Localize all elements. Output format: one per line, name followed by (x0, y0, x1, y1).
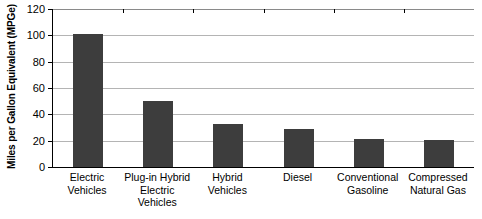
x-axis-label-line1: Hybrid Vehicles (208, 171, 247, 196)
category-separator (404, 9, 405, 13)
x-axis-label-line1: Plug-in Hybrid (124, 171, 190, 183)
category-separator (264, 9, 265, 13)
y-tick-mark (48, 9, 53, 10)
gridline (53, 141, 474, 142)
y-tick-mark (48, 141, 53, 142)
x-axis-labels: Electric VehiclesPlug-in HybridElectric … (52, 171, 473, 217)
y-tick-mark (48, 167, 53, 168)
category-separator (334, 9, 335, 13)
category-separator (123, 9, 124, 13)
bar-chart: Miles per Gallon Equivalent (MPGe) 12010… (0, 0, 482, 219)
x-axis-label-line1: Conventional (337, 171, 398, 183)
x-axis-label: Plug-in HybridElectric Vehicles (122, 171, 192, 209)
plot-area: 120100806040200 (52, 9, 474, 168)
gridline (53, 114, 474, 115)
y-tick-label: 20 (33, 135, 45, 147)
y-tick-label: 40 (33, 108, 45, 120)
bar (354, 139, 384, 167)
x-axis-label-line2: Electric Vehicles (122, 184, 192, 209)
x-axis-label-line1: Diesel (283, 171, 312, 183)
bar (213, 124, 243, 167)
y-tick-label: 120 (27, 3, 45, 15)
x-axis-label-line1: Compressed (408, 171, 468, 183)
y-tick-mark (48, 88, 53, 89)
category-separator (193, 9, 194, 13)
x-axis-label: Hybrid Vehicles (192, 171, 262, 196)
x-axis-label: CompressedNatural Gas (403, 171, 473, 196)
y-axis-title-text: Miles per Gallon Equivalent (MPGe) (6, 4, 17, 169)
gridline (53, 62, 474, 63)
bar (143, 101, 173, 167)
x-axis-label-line2: Gasoline (333, 184, 403, 197)
x-axis-label: Electric Vehicles (52, 171, 122, 196)
y-tick-mark (48, 114, 53, 115)
y-tick-label: 80 (33, 56, 45, 68)
gridline (53, 88, 474, 89)
y-tick-label: 60 (33, 82, 45, 94)
bar (284, 129, 314, 167)
y-tick-mark (48, 35, 53, 36)
y-tick-mark (48, 62, 53, 63)
y-tick-label: 100 (27, 29, 45, 41)
bar (73, 34, 103, 167)
y-tick-label: 0 (39, 161, 45, 173)
gridline (53, 35, 474, 36)
x-axis-label-line2: Natural Gas (403, 184, 473, 197)
bar (424, 140, 454, 167)
x-axis-label: Diesel (263, 171, 333, 184)
x-axis-label-line1: Electric Vehicles (68, 171, 107, 196)
x-axis-label: ConventionalGasoline (333, 171, 403, 196)
y-axis-title: Miles per Gallon Equivalent (MPGe) (0, 0, 22, 172)
